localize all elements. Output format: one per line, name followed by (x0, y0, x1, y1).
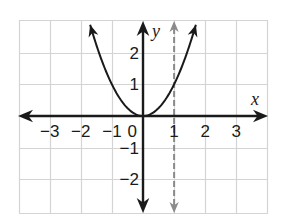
y-tick-label: −1 (120, 139, 139, 158)
y-tick-label: 2 (130, 44, 139, 63)
x-tick-label: −3 (40, 122, 59, 141)
x-tick-label: −2 (71, 122, 90, 141)
x-tick-label: 2 (200, 122, 209, 141)
x-axis-label: x (250, 89, 259, 109)
y-axis-label: y (150, 21, 160, 41)
x-tick-label: 3 (232, 122, 241, 141)
y-tick-label: 1 (130, 75, 139, 94)
coordinate-plane: −3−2−10123−2−112 x y (0, 0, 282, 222)
x-tick-label: 1 (169, 122, 178, 141)
y-tick-label: −2 (120, 170, 139, 189)
